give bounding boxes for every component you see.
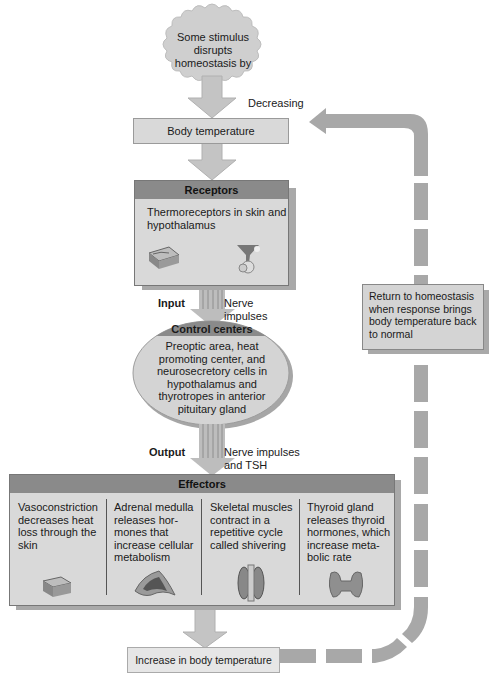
stimulus-text: Some stimulus disrupts homeostasis by [168, 31, 258, 70]
arrow-stimulus-to-body-temp [188, 76, 236, 118]
effector-item-shivering: Skeletal muscles contract in a repetitiv… [210, 501, 298, 551]
input-label: Input [158, 297, 185, 310]
return-note-box: Return to homeostasis when response brin… [362, 284, 484, 350]
skeletal-muscle-icon [236, 563, 266, 603]
effector-item-adrenal: Adrenal medulla releases hor-mones that … [114, 501, 202, 564]
output-label: Output [149, 446, 185, 459]
effector-item-vasoconstriction: Vasoconstriction decreases heat loss thr… [18, 501, 102, 551]
thyroid-gland-icon [327, 569, 365, 599]
control-centers-title: Control centers [150, 323, 274, 336]
receptors-text: Thermoreceptors in skin and hypothalamus [147, 206, 287, 232]
arrow-body-temp-to-receptors [188, 143, 236, 180]
hypothalamus-icon [235, 241, 263, 275]
response-label: Increase in body temperature [128, 654, 279, 667]
effector-divider [201, 499, 202, 595]
input-signal-label: Nerve impulses [224, 297, 274, 323]
effectors-title: Effectors [10, 475, 394, 493]
output-signal-label: Nerve impulses and TSH [224, 446, 304, 472]
response-box: Increase in body temperature [127, 647, 280, 673]
effector-item-thyroid: Thyroid gland releases thyroid hormones,… [307, 501, 391, 564]
effector-divider [299, 499, 300, 595]
effector-divider [106, 499, 107, 595]
effectors-box: Effectors Vasoconstriction decreases hea… [9, 474, 395, 606]
skin-section-icon [147, 245, 181, 271]
skin-section-icon [41, 575, 73, 599]
controlled-condition-label: Body temperature [134, 125, 288, 138]
controlled-condition-box: Body temperature [133, 118, 289, 144]
receptors-box: Receptors Thermoreceptors in skin and hy… [134, 180, 289, 286]
adrenal-gland-icon [133, 569, 177, 599]
change-label: Decreasing [248, 97, 304, 110]
receptors-title: Receptors [135, 181, 288, 199]
return-note-text: Return to homeostasis when response brin… [369, 290, 481, 340]
control-centers-text: Preoptic area, heat promoting center, an… [150, 340, 274, 415]
